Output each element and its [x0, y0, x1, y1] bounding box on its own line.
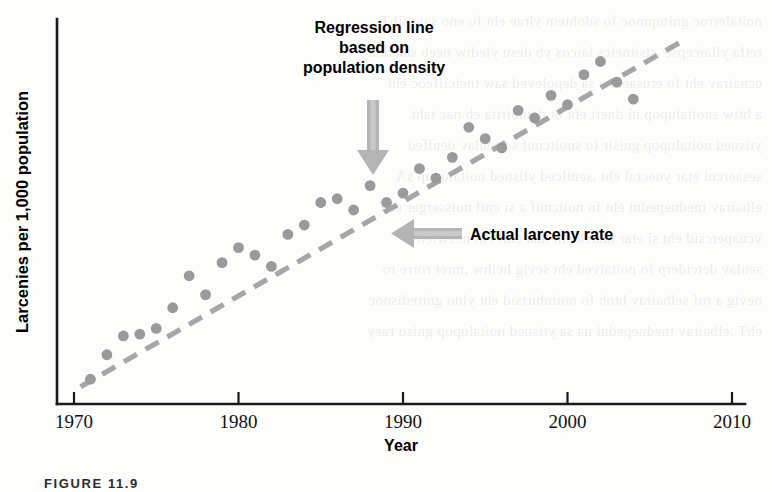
scatter-point	[381, 197, 392, 208]
scatter-point	[85, 374, 96, 385]
scatter-point	[480, 133, 491, 144]
scatter-point	[562, 99, 573, 110]
x-axis-tick-label: 1980	[220, 411, 258, 432]
scatter-point	[579, 69, 590, 80]
scatter-point	[611, 77, 622, 88]
x-axis-ticks: 19701980199020002010	[55, 392, 751, 432]
scatter-point	[332, 193, 343, 204]
scatter-point	[134, 329, 145, 340]
scatter-point	[463, 122, 474, 133]
scatter-point	[447, 152, 458, 163]
down-arrow-icon	[357, 100, 389, 175]
regression-annotation: Regression line based on population dens…	[303, 19, 445, 175]
scatter-point	[266, 261, 277, 272]
actual-rate-annotation-label: Actual larceny rate	[470, 226, 613, 243]
figure-root: noitalerroc gnitupmoc fo sdohtem ylrae e…	[0, 0, 772, 492]
left-arrow-icon	[391, 219, 462, 248]
scatter-point	[315, 197, 326, 208]
scatter-point	[200, 289, 211, 300]
regression-annotation-line3: population density	[303, 59, 445, 76]
scatter-point	[250, 250, 261, 261]
scatter-chart: 19701980199020002010 Year Larcenies per …	[0, 0, 772, 492]
scatter-point	[282, 229, 293, 240]
scatter-point	[118, 331, 129, 342]
figure-caption: FIGURE 11.9	[44, 476, 344, 492]
scatter-point	[595, 56, 606, 67]
regression-annotation-line2: based on	[339, 39, 409, 56]
regression-annotation-line1: Regression line	[314, 19, 433, 36]
scatter-point	[102, 349, 113, 360]
x-axis-tick-label: 1970	[55, 411, 93, 432]
actual-rate-annotation: Actual larceny rate	[391, 219, 613, 248]
scatter-point	[217, 257, 228, 268]
scatter-point	[299, 220, 310, 231]
x-axis-tick-label: 2000	[549, 411, 587, 432]
x-axis-tick-label: 2010	[713, 411, 751, 432]
scatter-point	[628, 94, 639, 105]
scatter-point	[151, 323, 162, 334]
scatter-point	[414, 163, 425, 174]
scatter-point	[496, 143, 507, 154]
scatter-point	[348, 205, 359, 216]
x-axis-tick-label: 1990	[384, 411, 422, 432]
scatter-point	[233, 242, 244, 253]
x-axis-title: Year	[384, 437, 418, 454]
scatter-point	[167, 302, 178, 313]
scatter-point	[184, 270, 195, 281]
regression-trendline	[81, 39, 686, 387]
figure-caption-label: FIGURE 11.9	[44, 476, 139, 491]
scatter-point	[546, 90, 557, 101]
chart-axes	[57, 19, 745, 404]
scatter-point	[529, 112, 540, 123]
scatter-point	[398, 188, 409, 199]
scatter-point	[365, 180, 376, 191]
scatter-point	[513, 105, 524, 116]
scatter-point	[431, 173, 442, 184]
y-axis-title: Larcenies per 1,000 population	[13, 91, 31, 333]
